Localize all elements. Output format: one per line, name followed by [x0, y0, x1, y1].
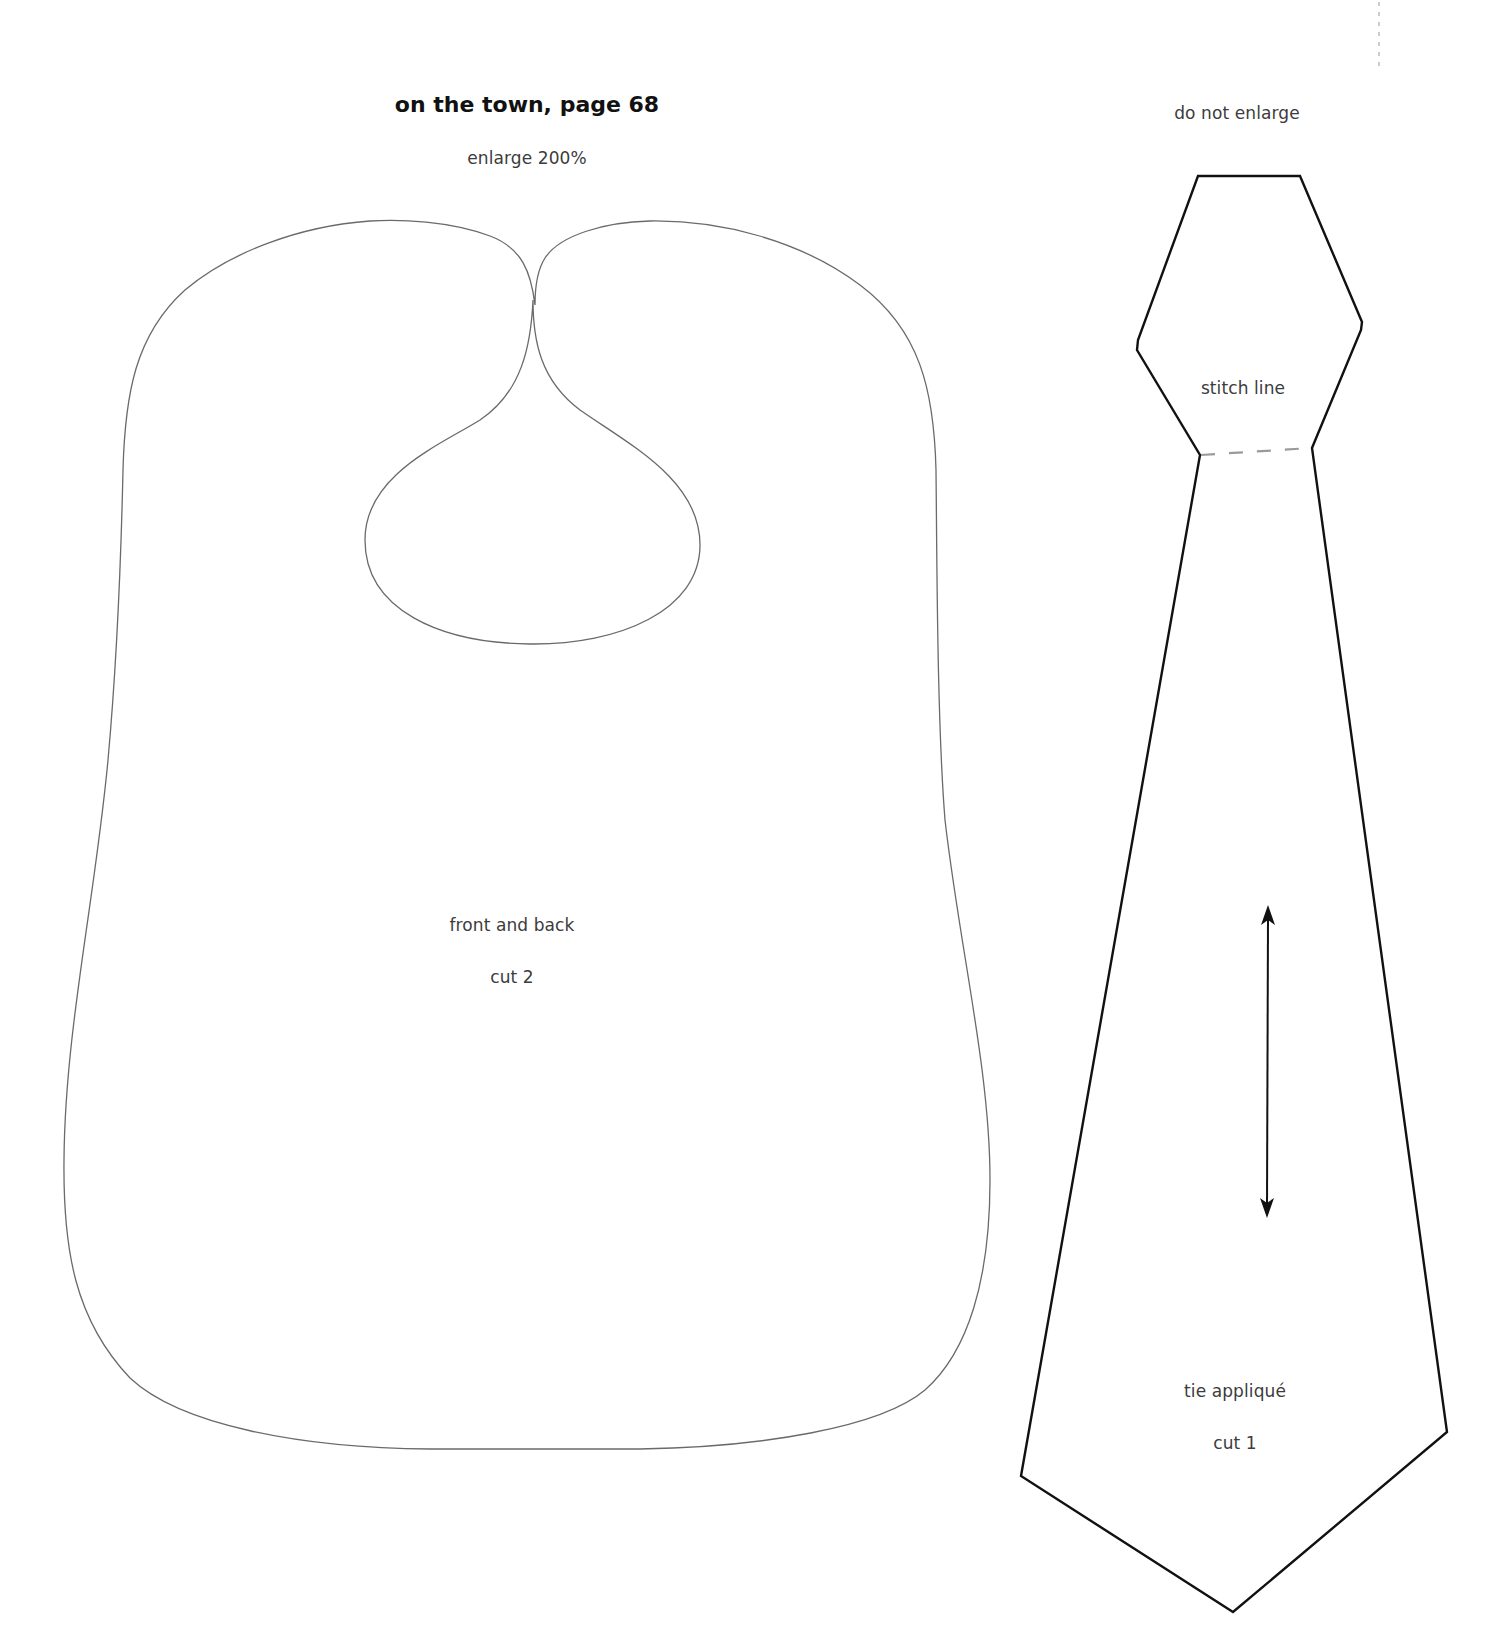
grainline-arrow-icon [1260, 905, 1275, 1218]
pattern-artwork [0, 0, 1507, 1652]
bib-outline [64, 220, 990, 1449]
tie-piece-name: tie appliqué [1184, 1381, 1286, 1401]
tie-stitch-label: stitch line [1201, 378, 1285, 398]
bib-neck-hole [365, 300, 700, 644]
tie-scale-note: do not enlarge [1174, 103, 1300, 123]
bib-cut-count: cut 2 [490, 967, 534, 987]
bib-scale-note: enlarge 200% [467, 148, 587, 168]
tie-cut-count: cut 1 [1213, 1433, 1257, 1453]
bib-piece-name: front and back [449, 915, 574, 935]
page-title: on the town, page 68 [395, 92, 659, 117]
tie-stitch-line [1201, 448, 1311, 455]
